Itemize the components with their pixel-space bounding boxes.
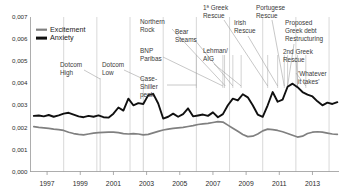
annotation-bear-stearns-line2: Steams	[175, 36, 197, 43]
y-axis-tick-label: 0,004	[12, 79, 28, 86]
annotation-second-greek-rescue-line1: 2nd Greek	[283, 48, 314, 55]
leader-lines	[84, 20, 306, 86]
y-axis-labels: 0,0000,0010,0020,0030,0040,0050,0060,007	[12, 13, 28, 175]
x-axis-ticks	[47, 172, 312, 176]
annotation-first-greek-rescue-line1: 1ª Greek	[203, 4, 229, 11]
chart-container: 0,0000,0010,0020,0030,0040,0050,0060,007…	[0, 0, 343, 196]
annotation-northern-rock-line2: Rock	[140, 26, 155, 33]
annotation-whatever-it-takes-line2: it takes'	[298, 78, 319, 85]
annotation-lehman-aig-line1: Lehman/	[203, 47, 228, 54]
annotation-case-shiller-line1: Case-	[140, 75, 157, 82]
annotation-dotcom-high-line2: High	[60, 69, 74, 77]
sentiment-line-chart: 0,0000,0010,0020,0030,0040,0050,0060,007…	[0, 0, 343, 196]
annotation-bnp-line2: Paribas	[140, 55, 162, 62]
annotation-dotcom-low-line1: Dotcom	[102, 61, 124, 68]
annotation-proposed-restructuring-line1: Proposed	[285, 19, 313, 27]
legend-label-anxiety: Anxiety	[50, 33, 74, 42]
x-axis-tick-label: 2005	[172, 180, 187, 187]
x-axis-tick-label: 2001	[106, 180, 121, 187]
x-axis-tick-label: 1997	[40, 180, 55, 187]
annotation-leader-line	[84, 70, 100, 79]
y-axis-tick-label: 0,003	[12, 101, 28, 108]
x-axis-tick-label: 2013	[305, 180, 320, 187]
annotation-lehman-aig-line2: AIG	[203, 55, 214, 62]
x-axis-tick-label: 2003	[139, 180, 154, 187]
annotation-case-shiller-line3: peak	[140, 91, 155, 99]
series-line-anxiety	[34, 84, 338, 119]
annotation-first-greek-rescue-line2: Rescue	[203, 12, 225, 19]
annotation-northern-rock-line1: Northern	[140, 18, 165, 25]
annotation-bear-stearns-line1: Bear	[175, 28, 189, 35]
annotation-case-shiller-line2: Shiller	[140, 83, 159, 90]
y-axis-tick-label: 0,006	[12, 35, 28, 42]
annotation-whatever-it-takes-line1: 'Whatever	[298, 70, 327, 77]
y-axis-tick-label: 0,000	[12, 168, 28, 175]
y-axis-tick-label: 0,005	[12, 57, 28, 64]
x-axis-tick-label: 1999	[73, 180, 88, 187]
annotation-proposed-restructuring-line2: Greek debt	[285, 27, 317, 34]
annotation-leader-line	[214, 64, 241, 86]
x-axis-tick-label: 2009	[239, 180, 254, 187]
x-axis-tick-label: 2007	[205, 180, 220, 187]
y-axis-tick-label: 0,002	[12, 124, 28, 131]
annotation-irish-rescue-line1: Irish	[234, 19, 247, 26]
annotation-irish-rescue-line2: Rescue	[234, 27, 256, 34]
legend-swatch-anxiety	[36, 37, 47, 40]
annotation-proposed-restructuring-line3: Restructuring	[285, 35, 323, 43]
annotation-bnp-line1: BNP	[140, 47, 153, 54]
annotation-dotcom-low-line2: Low	[102, 69, 114, 76]
annotation-portugese-rescue-line1: Portugese	[256, 4, 286, 12]
annotation-dotcom-high-line1: Dotcom	[60, 61, 82, 68]
annotation-second-greek-rescue-line2: Rescue	[283, 56, 305, 63]
legend: Excitement Anxiety	[36, 25, 86, 42]
legend-swatch-excitement	[36, 29, 47, 31]
x-axis-labels: 199719992001200320052007200920112013	[40, 180, 321, 187]
x-axis-tick-label: 2011	[272, 180, 287, 187]
series-line-excitement	[34, 122, 338, 137]
event-lines	[100, 55, 306, 172]
y-axis-tick-label: 0,007	[12, 13, 28, 20]
annotation-portugese-rescue-line2: Rescue	[256, 12, 278, 19]
y-axis-tick-label: 0,001	[12, 146, 28, 153]
